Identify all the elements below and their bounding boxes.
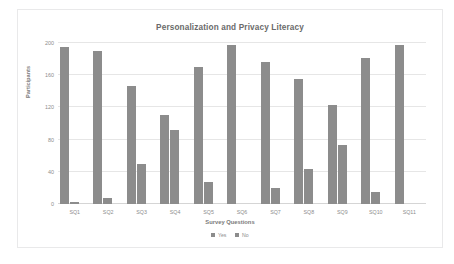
bar-sq3-no[interactable] (137, 164, 146, 204)
x-tick-label: SQ3 (136, 209, 147, 215)
x-tick-label: SQ8 (304, 209, 315, 215)
x-tick-label: SQ9 (337, 209, 348, 215)
y-axis-title: Participants (25, 66, 31, 98)
bar-sq7-no[interactable] (271, 188, 280, 204)
bar-sq1-no[interactable] (70, 202, 79, 204)
bar-sq8-yes[interactable] (294, 79, 303, 204)
bar-sq10-yes[interactable] (361, 58, 370, 205)
legend-swatch-icon (235, 233, 239, 237)
bar-sq10-no[interactable] (371, 192, 380, 204)
plot-area: 04080120160200SQ1SQ2SQ3SQ4SQ5SQ6SQ7SQ8SQ… (58, 43, 426, 204)
bar-group: SQ10 (359, 43, 392, 204)
legend-label: Yes (218, 232, 226, 238)
x-tick-label: SQ11 (403, 209, 416, 215)
x-tick-label: SQ7 (270, 209, 281, 215)
bar-sq2-yes[interactable] (93, 51, 102, 204)
y-tick-label: 0 (51, 201, 54, 207)
legend-label: No (242, 232, 249, 238)
chart-figure: Personalization and Privacy Literacy Par… (17, 9, 443, 248)
bar-sq9-yes[interactable] (328, 105, 337, 204)
x-tick-label: SQ1 (69, 209, 80, 215)
x-tick-label: SQ10 (369, 209, 383, 215)
bar-sq5-yes[interactable] (194, 67, 203, 204)
bar-sq6-yes[interactable] (227, 45, 236, 204)
x-tick-label: SQ2 (103, 209, 114, 215)
bar-group: SQ7 (259, 43, 292, 204)
bar-sq2-no[interactable] (103, 198, 112, 204)
chart-legend: YesNo (18, 232, 442, 238)
x-tick-label: SQ6 (237, 209, 248, 215)
x-tick-label: SQ4 (170, 209, 181, 215)
bar-group: SQ2 (91, 43, 124, 204)
bar-group: SQ9 (326, 43, 359, 204)
bar-sq11-yes[interactable] (395, 45, 404, 204)
legend-entry-yes[interactable]: Yes (211, 232, 226, 238)
bar-sq4-no[interactable] (170, 130, 179, 204)
bar-sq3-yes[interactable] (127, 86, 136, 204)
bar-group: SQ6 (225, 43, 258, 204)
y-tick-label: 40 (48, 169, 54, 175)
bar-group: SQ1 (58, 43, 91, 204)
bar-group: SQ3 (125, 43, 158, 204)
y-tick-label: 80 (48, 137, 54, 143)
y-tick-label: 120 (45, 104, 54, 110)
bar-sq5-no[interactable] (204, 182, 213, 204)
bar-group: SQ11 (393, 43, 426, 204)
chart-title: Personalization and Privacy Literacy (18, 23, 442, 32)
legend-swatch-icon (211, 233, 215, 237)
bar-group: SQ4 (158, 43, 191, 204)
bar-sq7-yes[interactable] (261, 62, 270, 204)
bar-sq9-no[interactable] (338, 145, 347, 204)
x-axis-title: Survey Questions (18, 219, 442, 225)
bar-sq8-no[interactable] (304, 169, 313, 204)
x-tick-label: SQ5 (203, 209, 214, 215)
bar-group: SQ5 (192, 43, 225, 204)
legend-entry-no[interactable]: No (235, 232, 248, 238)
bar-sq1-yes[interactable] (60, 47, 69, 204)
bar-sq4-yes[interactable] (160, 115, 169, 204)
y-tick-label: 200 (45, 40, 54, 46)
bar-group: SQ8 (292, 43, 325, 204)
y-tick-label: 160 (45, 72, 54, 78)
